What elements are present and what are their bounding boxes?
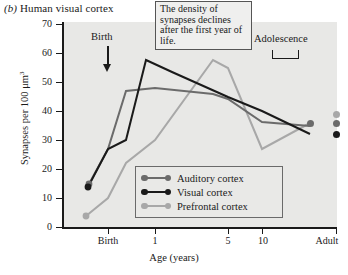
birth-annotation-label: Birth xyxy=(91,31,113,42)
legend-label-prefrontal-cortex: Prefrontal cortex xyxy=(177,201,248,212)
adolescence-annotation-label: Adolescence xyxy=(254,33,308,44)
birth-arrow-icon xyxy=(103,64,111,72)
legend-swatch-auditory-cortex xyxy=(141,173,171,183)
legend: Auditory cortex Visual cortex Prefrontal… xyxy=(135,166,283,218)
callout-box: The density of synapses declines after t… xyxy=(155,1,252,50)
adult-marker-auditory-cortex xyxy=(333,120,340,127)
start-marker-visual-cortex xyxy=(85,184,92,191)
legend-item-auditory-cortex: Auditory cortex xyxy=(141,171,277,185)
adult-marker-visual-cortex xyxy=(333,131,340,138)
end-marker-auditory-cortex xyxy=(307,120,314,127)
legend-swatch-visual-cortex xyxy=(141,187,171,197)
legend-label-auditory-cortex: Auditory cortex xyxy=(177,173,244,184)
legend-label-visual-cortex: Visual cortex xyxy=(177,187,233,198)
start-marker-prefrontal-cortex xyxy=(83,213,90,220)
adolescence-bracket-icon xyxy=(272,50,299,59)
legend-item-visual-cortex: Visual cortex xyxy=(141,185,277,199)
adult-marker-prefrontal-cortex xyxy=(333,111,340,118)
legend-swatch-prefrontal-cortex xyxy=(141,201,171,211)
legend-item-prefrontal-cortex: Prefrontal cortex xyxy=(141,199,277,213)
figure-panel: (b) Human visual cortex 0 10 20 30 40 50… xyxy=(0,0,348,275)
